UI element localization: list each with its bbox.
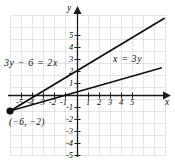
y-tick-label-3: 3 [69,55,73,64]
y-tick-label-1: 1 [69,79,73,88]
y-tick-label-4: 4 [69,43,73,52]
equation-label-left: 3y − 6 = 2x [4,58,58,68]
y-tick-label--4: -4 [66,139,73,148]
y-tick-label--3: -3 [66,127,73,136]
graph-canvas [0,0,175,164]
x-tick-label-1: 1 [86,98,90,107]
x-tick-label--5: -5 [16,98,23,107]
y-tick-label-2: 2 [69,67,73,76]
y-tick-label--2: -2 [66,115,73,124]
equation-label-right: x = 3y [113,54,142,64]
x-tick-label-2: 2 [97,98,101,107]
y-tick-label--1: -1 [66,103,73,112]
y-axis-name: y [67,4,71,14]
x-tick-label--2: -2 [49,98,56,107]
x-tick-label-5: 5 [130,98,134,107]
x-tick-label-4: 4 [119,98,123,107]
x-tick-label--4: -4 [27,98,34,107]
x-tick-label--3: -3 [38,98,45,107]
coordinate-plane-figure: -5 -4 -3 -2 -1 1 2 3 4 5 5 4 3 2 1 -1 -2… [0,0,175,164]
y-tick-label--5: -5 [66,151,73,160]
x-tick-label-3: 3 [108,98,112,107]
point-label-neg6-neg2: (−6, −2) [9,118,45,128]
y-tick-label-5: 5 [69,31,73,40]
x-axis-name: x [165,98,169,108]
point-marker-neg6-neg2 [6,107,13,114]
y-axis-arrow [74,6,82,14]
grid-lines [11,16,167,156]
